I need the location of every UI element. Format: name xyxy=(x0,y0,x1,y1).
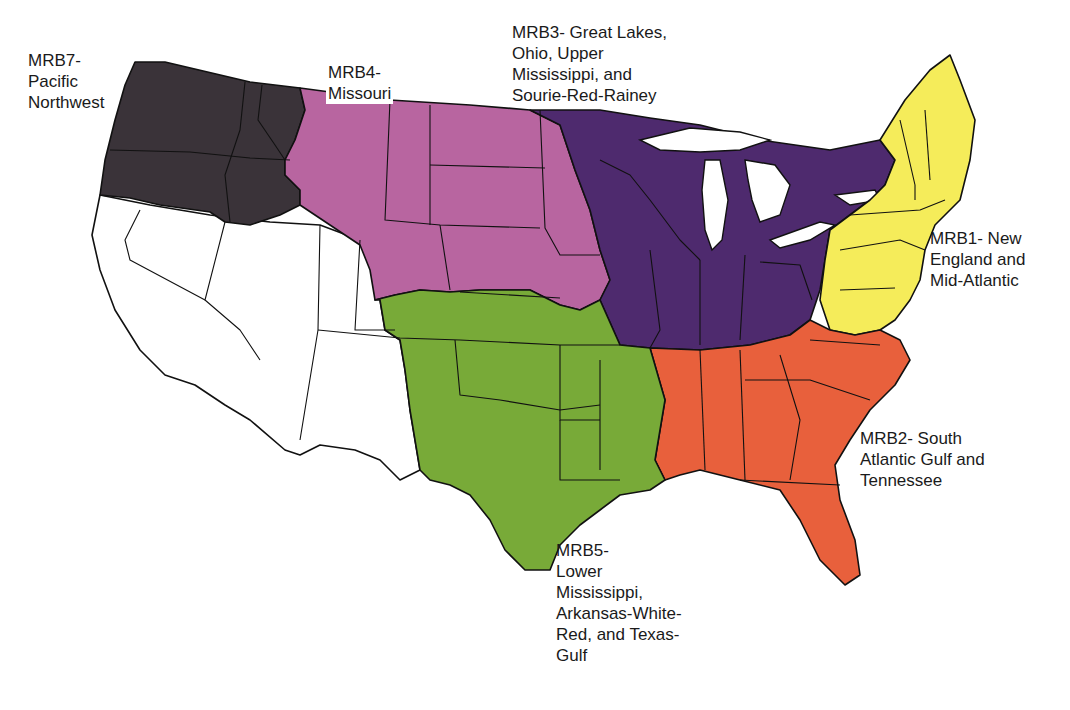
label-mrb4: MRB4- Missouri xyxy=(326,62,393,104)
us-basin-map xyxy=(0,0,1070,710)
label-mrb7: MRB7- Pacific Northwest xyxy=(28,50,105,113)
label-mrb1: MRB1- New England and Mid-Atlantic xyxy=(930,228,1025,291)
label-mrb5: MRB5- Lower Mississippi, Arkansas-White-… xyxy=(556,540,682,666)
label-mrb2: MRB2- South Atlantic Gulf and Tennessee xyxy=(860,428,985,491)
label-mrb3: MRB3- Great Lakes, Ohio, Upper Mississip… xyxy=(510,22,669,106)
